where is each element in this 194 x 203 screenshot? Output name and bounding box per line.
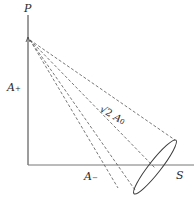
label-a-minus-base: A: [84, 170, 92, 183]
ellipse-region: [129, 137, 180, 198]
label-a-plus: A+: [7, 82, 21, 93]
label-a-plus-base: A: [7, 81, 15, 94]
axis-label-p: P: [24, 3, 31, 14]
label-a-minus-sub: −: [92, 174, 98, 182]
label-a-minus: A−: [84, 171, 98, 182]
axis-label-s: S: [176, 170, 184, 181]
label-a-plus-sub: +: [15, 85, 21, 93]
